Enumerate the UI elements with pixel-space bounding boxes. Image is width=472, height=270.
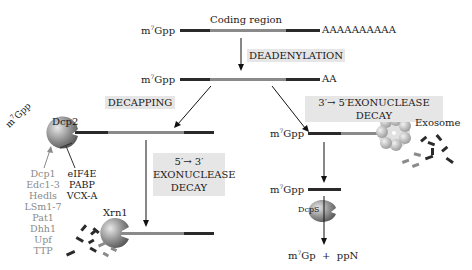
decay-5-3-line1: 5′→ 3′ xyxy=(153,155,225,168)
coding-region-label: Coding region xyxy=(210,15,282,25)
mrna-full xyxy=(180,29,320,32)
diagram-graphics xyxy=(0,0,472,270)
exosome-label: Exosome xyxy=(415,118,461,128)
decapping-inhibitors: eIF4E PABP VCX-A xyxy=(62,168,102,201)
mrna-cap-fragment xyxy=(308,188,341,191)
arrowhead-icon xyxy=(321,176,327,183)
cap-label-fragment: m7Gpp xyxy=(270,184,304,195)
xrn1-label: Xrn1 xyxy=(103,208,128,218)
activator-item: Edc1-3 xyxy=(20,179,66,190)
decay-5-3-box: 5′→ 3′ EXONUCLEASE DECAY xyxy=(153,153,225,196)
polya-tail-long: AAAAAAAAAA xyxy=(322,25,396,35)
decapping-box: DECAPPING xyxy=(105,96,175,109)
activator-item: Pat1 xyxy=(20,212,66,223)
activator-item: Dhh1 xyxy=(20,223,66,234)
polya-tail-short: AA xyxy=(322,74,336,84)
mrna-deadenylated xyxy=(180,78,320,81)
mrna-xrn1 xyxy=(121,232,214,235)
dcp2-label: Dcp2 xyxy=(52,117,78,127)
activator-item: Dcp1 xyxy=(20,168,66,179)
inhibitor-item: VCX-A xyxy=(62,190,102,201)
deadenylation-box: DEADENYLATION xyxy=(247,49,345,62)
mrna-decapping xyxy=(75,131,214,134)
activator-item: TTP xyxy=(20,245,66,256)
arrowhead-icon xyxy=(143,220,149,227)
arrowhead-icon xyxy=(321,238,327,245)
mrna-exosome xyxy=(308,132,381,135)
decay-5-3-line3: DECAY xyxy=(153,181,225,194)
products-label: m7Gp + ppN xyxy=(288,250,358,261)
cap-label-top: m7Gpp xyxy=(141,25,175,36)
arrowhead-icon xyxy=(238,64,244,71)
decapping-activators: Dcp1 Edc1-3 Hedls LSm1-7 Pat1 Dhh1 Upf T… xyxy=(20,168,66,256)
dcps-label: DcpS xyxy=(298,206,320,214)
decay-5-3-line2: EXONUCLEASE xyxy=(153,168,225,181)
activator-item: Upf xyxy=(20,234,66,245)
inhibitor-item: PABP xyxy=(62,179,102,190)
inhibitor-item: eIF4E xyxy=(62,168,102,179)
cap-label-exosome: m7Gpp xyxy=(270,128,304,139)
activator-item: LSm1-7 xyxy=(20,201,66,212)
activator-item: Hedls xyxy=(20,190,66,201)
cap-label-deadenylated: m7Gpp xyxy=(141,74,175,85)
